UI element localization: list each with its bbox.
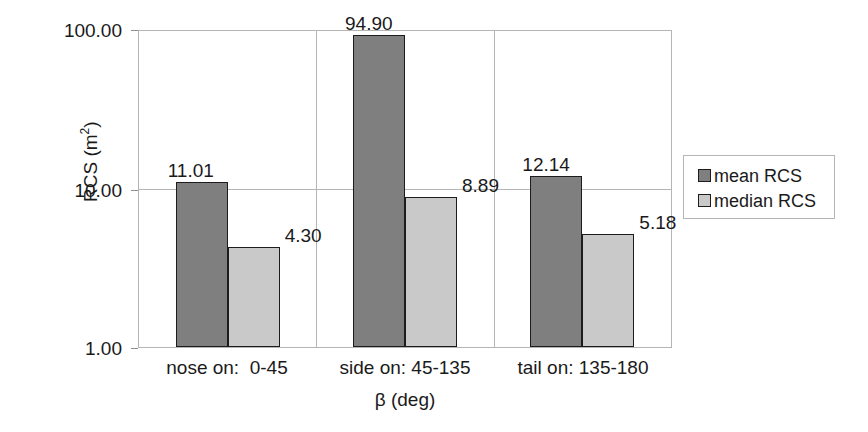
y-axis-title-close-paren: ) xyxy=(80,121,101,127)
bar-mean-tail-on xyxy=(530,176,582,347)
bar-mean-side-on xyxy=(353,35,405,347)
data-label-mean-side-on: 94.90 xyxy=(345,14,393,33)
y-tick-label-1: 1.00 xyxy=(4,339,122,358)
legend-label-mean: mean RCS xyxy=(714,167,802,185)
bar-median-nose-on xyxy=(228,247,280,347)
x-category-label-tail-on: tail on: 135-180 xyxy=(494,358,672,377)
y-tick-label-100: 100.00 xyxy=(4,21,122,40)
y-tick-mark-100 xyxy=(131,30,138,31)
category-separator-1 xyxy=(316,31,317,347)
y-tick-mark-1 xyxy=(131,348,138,349)
bar-mean-nose-on xyxy=(176,182,228,347)
data-label-median-tail-on: 5.18 xyxy=(639,213,676,232)
data-label-median-side-on: 8.89 xyxy=(462,176,499,195)
legend-swatch-icon-mean xyxy=(698,169,711,182)
bar-median-side-on xyxy=(405,197,457,347)
y-axis-title-exponent: 2 xyxy=(78,128,92,135)
data-label-mean-nose-on: 11.01 xyxy=(168,161,214,180)
rcs-bar-chart: RCS (m2) 100.00 10.00 1.00 11.01 4.30 94… xyxy=(0,0,868,432)
data-label-median-nose-on: 4.30 xyxy=(285,226,322,245)
legend-swatch-icon-median xyxy=(698,194,711,207)
y-tick-label-10: 10.00 xyxy=(4,181,122,200)
plot-area xyxy=(138,30,672,348)
y-tick-mark-10 xyxy=(131,190,138,191)
x-category-label-side-on: side on: 45-135 xyxy=(316,358,494,377)
y-axis-title: RCS (m2) xyxy=(78,62,101,262)
legend-item-median-rcs: median RCS xyxy=(698,188,834,213)
legend-label-median: median RCS xyxy=(714,192,816,210)
bar-median-tail-on xyxy=(582,234,634,347)
legend: mean RCS median RCS xyxy=(683,155,835,219)
data-label-mean-tail-on: 12.14 xyxy=(522,155,570,174)
x-category-label-nose-on: nose on: 0-45 xyxy=(138,358,316,377)
legend-item-mean-rcs: mean RCS xyxy=(698,163,834,188)
x-axis-title: β (deg) xyxy=(138,390,672,409)
